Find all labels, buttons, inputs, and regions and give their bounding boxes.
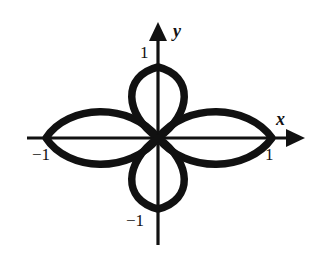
x-axis-tick-label-negative-one: −1 <box>32 146 50 163</box>
x-axis-label: x <box>276 110 285 128</box>
y-axis-tick-label-negative-one: −1 <box>126 212 144 229</box>
y-axis-label: y <box>173 22 181 40</box>
x-axis-tick-label-positive-one: 1 <box>265 146 274 163</box>
y-axis-arrowhead <box>149 22 167 41</box>
x-axis-arrowhead <box>286 129 305 147</box>
rose-curve-plot <box>0 0 315 254</box>
y-axis-tick-label-positive-one: 1 <box>140 44 149 61</box>
rose-curve-figure: y x 1 −1 1 −1 <box>0 0 315 254</box>
